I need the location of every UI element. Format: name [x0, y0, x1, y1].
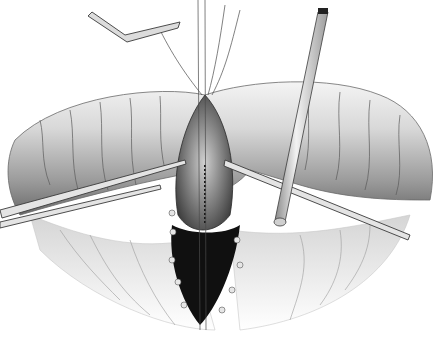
illustration-canvas: [0, 0, 446, 360]
retractor-clamp: [88, 12, 180, 42]
surgical-illustration: [0, 0, 446, 360]
tube-end: [318, 8, 328, 14]
tube-tip: [274, 218, 286, 226]
